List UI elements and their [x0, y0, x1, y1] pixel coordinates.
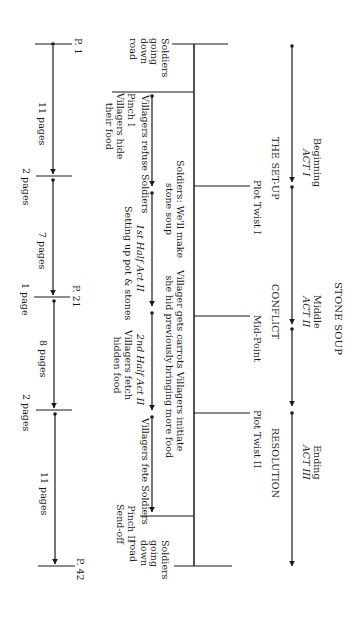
- segment-1-page: 1 page: [20, 283, 31, 316]
- page-1: P. 1: [73, 38, 84, 55]
- hide-food-line: their food: [104, 93, 115, 159]
- act1-phase: THE SET-UP: [270, 137, 281, 200]
- start-event-line: road: [128, 38, 139, 77]
- segment-8-pages: 8 pages: [38, 340, 49, 377]
- act2-label: Middle ACT II: [301, 295, 322, 329]
- act1-number: ACT I: [301, 138, 312, 187]
- midpoint-event-line: Villager gets carrots: [175, 270, 186, 369]
- segment-11-pages-b: 11 pages: [39, 472, 50, 515]
- segment-11-pages-a: 11 pages: [37, 102, 48, 145]
- mid-point: Mid-Point: [252, 315, 263, 362]
- twist2-event-line: bringing more food: [164, 365, 175, 458]
- twist2-event-line: Villagers initiate: [175, 365, 186, 458]
- midpoint-event: Villager gets carrots she hid previously: [164, 270, 185, 369]
- act3-label: Ending ACT III: [301, 445, 322, 480]
- end-event-line: going: [149, 540, 160, 579]
- twist1-event-line: Soldiers: We'll make: [175, 160, 186, 258]
- send-off: Send-off: [115, 504, 126, 544]
- fetch-food-line: Villagers fetch: [123, 330, 134, 400]
- fetch-food-line: hidden food: [112, 330, 123, 400]
- plot-twist-2: Plot Twist II: [252, 410, 263, 468]
- twist1-event: Soldiers: We'll make stone soup: [164, 160, 185, 258]
- start-event-line: down: [139, 38, 150, 77]
- segment-7-pages: 7 pages: [37, 232, 48, 269]
- setting-up-pot: Setting up pot & stones: [123, 206, 134, 320]
- page-21: P. 21: [71, 285, 82, 308]
- second-half-act2: 2nd Half Act II: [135, 334, 146, 405]
- act2-phase: CONFLICT: [270, 284, 281, 339]
- diagram-title: STONE SOUP: [333, 282, 344, 355]
- act3-number: ACT III: [301, 445, 312, 480]
- act1-label: Beginning ACT I: [301, 138, 322, 187]
- start-event-line: going: [149, 38, 160, 77]
- end-event-line: Soldiers: [160, 540, 171, 579]
- villagers-hide-food: Villagers hide their food: [104, 93, 125, 159]
- plot-twist-1: Plot Twist I: [252, 180, 263, 235]
- end-event-line: road: [128, 540, 139, 579]
- segment-2-pages-b: 2 pages: [21, 394, 32, 431]
- act1-name: Beginning: [312, 138, 323, 187]
- end-event-line: down: [139, 540, 150, 579]
- villagers-fetch-food: Villagers fetch hidden food: [112, 330, 133, 400]
- segment-2-pages-a: 2 pages: [21, 168, 32, 205]
- start-event-line: Soldiers: [160, 38, 171, 77]
- act3-phase: RESOLUTION: [270, 428, 281, 498]
- pinch-2-sendoff: Pinch II Send-off: [115, 504, 136, 544]
- twist1-event-line: stone soup: [164, 160, 175, 258]
- pinch-2: Pinch II: [126, 504, 137, 544]
- hide-food-line: Villagers hide: [115, 93, 126, 159]
- end-event: Soldiers going down road: [128, 540, 170, 579]
- twist2-event: Villagers initiate bringing more food: [164, 365, 185, 458]
- page-42: P. 42: [75, 558, 86, 581]
- villagers-refuse: Villagers refuse Soldiers: [140, 95, 151, 213]
- pinch-1: Pinch I: [126, 93, 137, 127]
- act2-name: Middle: [312, 295, 323, 329]
- act3-name: Ending: [312, 445, 323, 480]
- villagers-fete-soldiers: Villagers fete Soldiers: [140, 418, 151, 525]
- start-event: Soldiers going down road: [128, 38, 170, 77]
- act2-number: ACT II: [301, 295, 312, 329]
- midpoint-event-line: she hid previously: [164, 270, 175, 369]
- first-half-act2: 1st Half Act II: [135, 224, 146, 292]
